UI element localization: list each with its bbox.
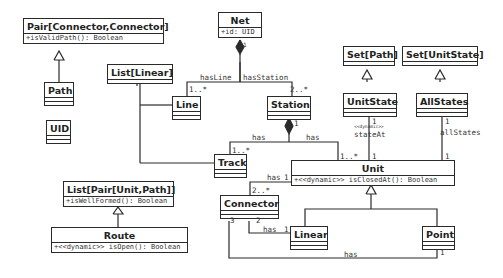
mult-point: 1 — [440, 248, 445, 257]
mult-unit-state: 1 — [372, 152, 377, 161]
class-net[interactable]: Net +id: UID — [218, 12, 262, 38]
class-path[interactable]: Path — [44, 82, 74, 106]
class-linear[interactable]: Linear — [290, 226, 328, 250]
mult-unit-allstates: 1 — [445, 152, 450, 161]
class-uid[interactable]: UID — [46, 120, 71, 144]
class-name: Set[Path] — [344, 47, 394, 62]
role-state-at: stateAt — [354, 130, 386, 139]
class-name: Pair[Connector,Connector] — [24, 19, 163, 34]
class-attribute: +id: UID — [219, 28, 261, 37]
role-station-track-has: has — [252, 133, 266, 142]
mult-unit-connector: 1 — [284, 173, 289, 182]
class-name: AllStates — [417, 94, 467, 109]
role-linear-has: has — [263, 225, 277, 234]
class-name: Path — [45, 83, 73, 98]
class-list-pair[interactable]: List[Pair[Unit,Path]] +isWellFormed(): B… — [63, 181, 174, 207]
class-name: List[Linear] — [108, 65, 172, 80]
class-operation: +<<dynamic>> isClosedAt(): Boolean — [292, 176, 454, 185]
role-has-station: hasStation — [243, 73, 288, 82]
mult-connector-two: 2 — [256, 216, 261, 225]
mult-connector: 2..* — [252, 186, 270, 195]
class-name: List[Pair[Unit,Path]] — [64, 182, 173, 197]
class-station[interactable]: Station — [267, 96, 311, 120]
role-unit-connector-has: has — [267, 173, 281, 182]
class-operation: +isValidPath(): Boolean — [24, 34, 163, 43]
class-set-path[interactable]: Set[Path] — [343, 46, 395, 66]
mult-station-one: 1 — [294, 119, 299, 128]
class-pair-connector[interactable]: Pair[Connector,Connector] +isValidPath()… — [23, 18, 164, 44]
class-connector[interactable]: Connector — [220, 195, 279, 219]
class-name: Connector — [221, 196, 278, 211]
class-set-unitstate[interactable]: Set[UnitState] — [402, 46, 478, 66]
class-name: UID — [47, 121, 70, 136]
class-unitstate[interactable]: UnitState — [343, 93, 397, 117]
class-unit[interactable]: Unit +<<dynamic>> isClosedAt(): Boolean — [291, 160, 455, 186]
mult-track: 1..* — [232, 146, 250, 155]
class-name: Line — [173, 97, 200, 112]
mult-allstates: 1 — [445, 117, 450, 126]
uml-class-diagram: Pair[Connector,Connector] +isValidPath()… — [0, 0, 503, 278]
stereotype-dynamic: <<dynamic>> — [354, 124, 384, 129]
class-name: Net — [219, 13, 261, 28]
role-point-has: has — [344, 250, 358, 259]
role-all-states: allStates — [440, 128, 481, 137]
mult-net: 1 — [243, 40, 247, 49]
class-operation: +<<dynamic>> isOpen(): Boolean — [52, 243, 187, 252]
class-name: Unit — [292, 161, 454, 176]
class-name: Set[UnitState] — [403, 47, 477, 62]
mult-station: 2..* — [290, 85, 308, 94]
mult-linear: 1 — [284, 225, 289, 234]
class-point[interactable]: Point — [422, 226, 455, 250]
class-name: Station — [268, 97, 310, 112]
class-name: Track — [215, 155, 246, 170]
mult-connector-three: 3 — [230, 216, 235, 225]
class-name: UnitState — [344, 94, 396, 109]
class-track[interactable]: Track — [214, 154, 247, 178]
class-route[interactable]: Route +<<dynamic>> isOpen(): Boolean — [51, 227, 188, 253]
class-list-linear[interactable]: List[Linear] — [107, 64, 173, 84]
mult-unit-station: 1..* — [340, 152, 358, 161]
role-has-line: hasLine — [200, 73, 232, 82]
class-name: Point — [423, 227, 454, 242]
class-name: Route — [52, 228, 187, 243]
class-allstates[interactable]: AllStates — [416, 93, 468, 117]
class-line[interactable]: Line — [172, 96, 201, 120]
mult-line: 1..* — [189, 85, 207, 94]
class-name: Linear — [291, 227, 327, 242]
class-operation: +isWellFormed(): Boolean — [64, 197, 173, 206]
role-station-unit-has: has — [306, 133, 320, 142]
